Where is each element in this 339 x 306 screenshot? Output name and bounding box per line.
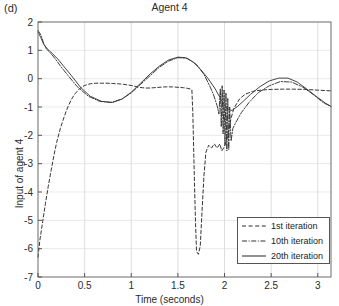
y-tick-label: 2	[27, 17, 33, 28]
legend-item-1: 10th iteration	[238, 233, 329, 248]
x-tick-label: 1.5	[171, 280, 185, 291]
legend-label-2: 20th iteration	[271, 251, 323, 261]
x-tick-label: 2.5	[264, 280, 278, 291]
x-tick-label: 0	[35, 280, 41, 291]
y-tick-label: -5	[24, 215, 33, 226]
x-tick-label: 1	[128, 280, 134, 291]
legend-swatch-dashdot	[241, 236, 267, 246]
series-line-2	[38, 32, 331, 110]
chart-figure: (d) Agent 4 00.511.522.53-7-6-5-4-3-2-10…	[0, 0, 339, 306]
y-tick-label: -2	[24, 130, 33, 141]
series-line-1	[38, 31, 331, 151]
legend-swatch-dashed	[241, 221, 267, 231]
y-tick-label: -4	[24, 187, 33, 198]
x-tick-label: 0.5	[78, 280, 92, 291]
y-tick-label: 1	[27, 45, 33, 56]
x-axis-label: Time (seconds)	[0, 294, 339, 305]
legend-item-2: 20th iteration	[238, 248, 329, 263]
y-axis-label-holder: Input of agent 4	[2, 60, 16, 210]
legend-label-0: 1st iteration	[271, 221, 318, 231]
y-axis-label: Input of agent 4	[14, 124, 25, 224]
y-tick-label: 0	[27, 73, 33, 84]
y-tick-label: -6	[24, 243, 33, 254]
legend-item-0: 1st iteration	[238, 218, 329, 233]
y-tick-label: -7	[24, 272, 33, 283]
y-tick-label: -1	[24, 102, 33, 113]
legend-swatch-solid	[241, 251, 267, 261]
x-tick-label: 3	[315, 280, 321, 291]
x-tick-label: 2	[222, 280, 228, 291]
legend-label-1: 10th iteration	[271, 236, 323, 246]
legend[interactable]: 1st iteration 10th iteration 20th iterat…	[237, 217, 330, 264]
y-tick-label: -3	[24, 158, 33, 169]
